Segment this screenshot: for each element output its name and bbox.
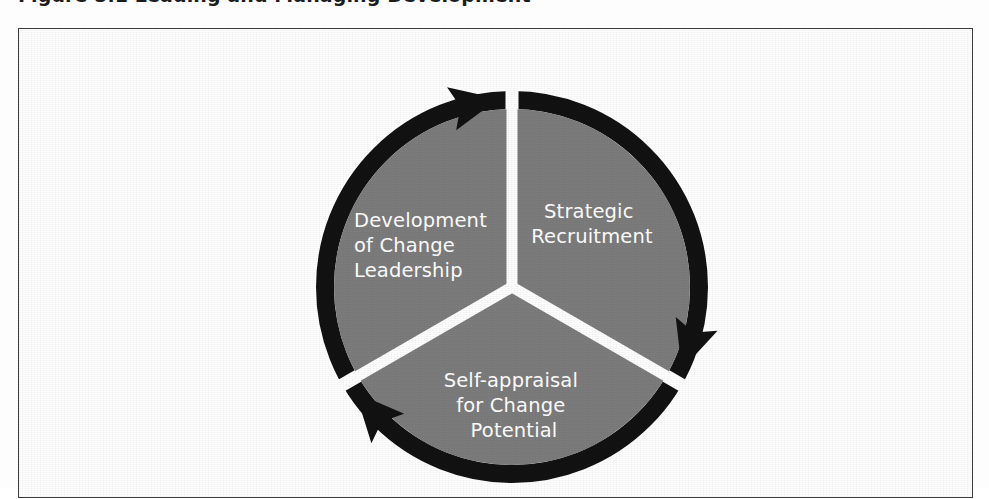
caption-remnant-text: Figure 5.1 Leading and Managing Developm…: [18, 0, 531, 6]
cycle-diagram-svg: Strategic Recruitment Self-appraisal for…: [300, 75, 724, 499]
caption-remnant: Figure 5.1 Leading and Managing Developm…: [0, 0, 989, 12]
figure-frame: Strategic Recruitment Self-appraisal for…: [18, 28, 973, 498]
cycle-diagram: Strategic Recruitment Self-appraisal for…: [300, 75, 724, 499]
